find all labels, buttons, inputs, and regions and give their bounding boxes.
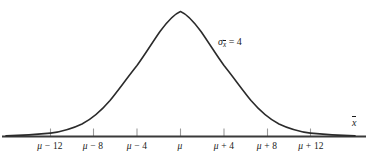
normal-distribution-figure: μ − 12 μ − 8 μ − 4 μ μ + 4 μ + 8 μ + 12 … — [0, 0, 369, 158]
tick-label-plus-4: μ + 4 — [214, 141, 235, 151]
normal-curve — [6, 12, 355, 136]
xbar-subscript: x — [223, 41, 226, 49]
tick-label-minus-8: μ − 8 — [83, 141, 104, 151]
xbar-symbol: x — [352, 117, 356, 128]
tick-label-plus-8: μ + 8 — [257, 141, 278, 151]
axis-ticks — [51, 129, 311, 137]
distribution-plot — [0, 0, 369, 158]
tick-label-minus-12: μ − 12 — [37, 141, 63, 151]
tick-label-mu: μ — [178, 141, 183, 151]
x-axis-label: x — [352, 117, 356, 128]
tick-label-minus-4: μ − 4 — [127, 141, 148, 151]
sigma-value: = 4 — [226, 36, 242, 47]
sigma-annotation: σx = 4 — [218, 36, 242, 49]
tick-label-plus-12: μ + 12 — [298, 141, 324, 151]
